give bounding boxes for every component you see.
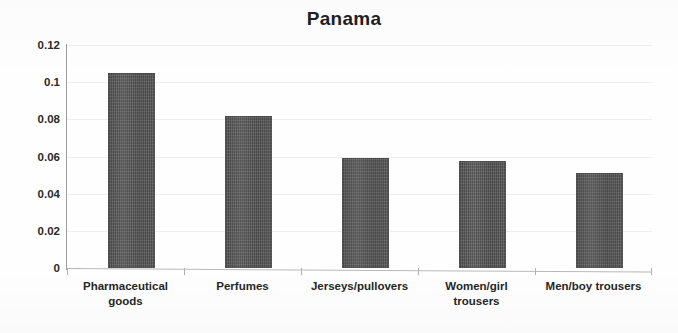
x-axis-category-labels: PharmaceuticalgoodsPerfumesJerseys/pullo… bbox=[67, 279, 652, 331]
bar bbox=[108, 73, 155, 268]
bar bbox=[225, 116, 272, 268]
plot-area bbox=[67, 45, 652, 268]
bar bbox=[342, 158, 389, 268]
chart-title: Panama bbox=[0, 8, 678, 30]
x-category-label-line: trousers bbox=[404, 294, 549, 309]
y-tick-label: 0.08 bbox=[14, 113, 60, 125]
x-category-label: Men/boy trousers bbox=[521, 279, 666, 294]
y-tick-label: 0.12 bbox=[14, 39, 60, 51]
x-tick-mark bbox=[535, 268, 536, 275]
x-tick-mark bbox=[184, 268, 185, 275]
x-category-label-line: goods bbox=[53, 294, 198, 309]
y-tick-label: 0 bbox=[14, 262, 60, 274]
y-tick-label: 0.06 bbox=[14, 151, 60, 163]
bar-chart-figure: Panama 00.020.040.060.080.10.12 Pharmace… bbox=[0, 0, 678, 333]
x-tick-mark bbox=[418, 268, 419, 275]
y-tick-label: 0.02 bbox=[14, 225, 60, 237]
bar bbox=[576, 173, 623, 268]
x-category-label-line: Men/boy trousers bbox=[521, 279, 666, 294]
x-axis-tick-marks bbox=[67, 268, 652, 276]
x-tick-mark bbox=[301, 268, 302, 275]
y-tick-label: 0.04 bbox=[14, 188, 60, 200]
bar bbox=[459, 161, 506, 268]
x-tick-mark bbox=[67, 268, 68, 275]
x-tick-mark bbox=[651, 268, 652, 275]
gridline bbox=[67, 45, 652, 46]
y-tick-label: 0.1 bbox=[14, 76, 60, 88]
